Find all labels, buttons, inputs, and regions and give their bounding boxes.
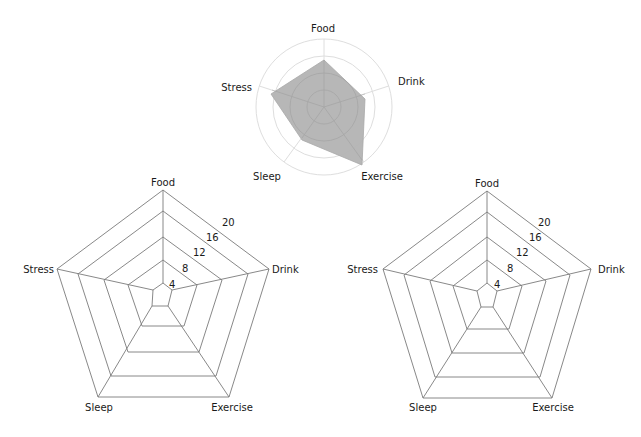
left-radar-grid [57, 190, 269, 397]
left-axis-label-food: Food [151, 177, 175, 188]
right-radar-grid [383, 191, 591, 398]
top-radar-chart: Food Drink Exercise Sleep Stress [221, 23, 425, 182]
right-tick-12: 12 [516, 247, 529, 258]
top-axis-label-drink: Drink [398, 76, 425, 87]
top-radar-data-area [271, 60, 365, 165]
right-axis-label-stress: Stress [347, 264, 378, 275]
right-tick-8: 8 [507, 263, 513, 274]
top-axis-label-exercise: Exercise [361, 171, 403, 182]
left-tick-4: 4 [169, 279, 175, 290]
left-axis-label-stress: Stress [23, 264, 54, 275]
left-axis-label-drink: Drink [272, 264, 299, 275]
top-axis-label-sleep: Sleep [253, 171, 281, 182]
right-tick-16: 16 [529, 232, 542, 243]
top-axis-label-food: Food [311, 23, 335, 34]
left-tick-8: 8 [182, 263, 188, 274]
right-radar-chart: 20 16 12 8 4 Food Drink Exercise Sleep S… [347, 178, 625, 413]
left-tick-12: 12 [193, 247, 206, 258]
right-tick-4: 4 [494, 279, 500, 290]
right-axis-label-food: Food [475, 178, 499, 189]
top-axis-label-stress: Stress [221, 82, 252, 93]
left-axis-label-exercise: Exercise [211, 402, 253, 413]
left-tick-16: 16 [206, 232, 219, 243]
radar-figure: Food Drink Exercise Sleep Stress 20 16 1… [0, 0, 641, 437]
left-axis-label-sleep: Sleep [85, 402, 113, 413]
right-axis-label-sleep: Sleep [409, 402, 437, 413]
right-tick-20: 20 [538, 217, 551, 228]
left-radar-chart: 20 16 12 8 4 Food Drink Exercise Sleep S… [23, 177, 299, 413]
left-tick-20: 20 [222, 217, 235, 228]
right-axis-label-exercise: Exercise [532, 402, 574, 413]
right-axis-label-drink: Drink [598, 264, 625, 275]
